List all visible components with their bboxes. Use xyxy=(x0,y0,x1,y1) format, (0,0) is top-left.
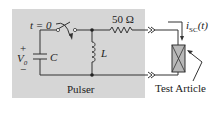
switch-time-label: t = 0 xyxy=(30,20,51,31)
current-label: iSC(t) xyxy=(186,20,208,34)
current-arrowhead-icon xyxy=(180,36,184,41)
switch-terminal-right xyxy=(73,28,76,31)
current-argument: (t) xyxy=(198,19,208,31)
junction-bottom xyxy=(90,73,94,77)
inductor-label: L xyxy=(101,48,107,59)
voltage-minus-label: − xyxy=(20,64,26,75)
test-article-label: Test Article xyxy=(155,83,206,94)
switch-terminal-left xyxy=(56,28,59,31)
junction-top xyxy=(90,28,94,32)
resistor-label: 50 Ω xyxy=(112,14,134,25)
test-article-pointer xyxy=(188,51,202,81)
pointer-arrowhead-icon xyxy=(187,50,193,54)
current-subscript: SC xyxy=(189,26,198,34)
capacitor-label: C xyxy=(50,52,57,63)
pulser-label: Pulser xyxy=(67,84,95,95)
